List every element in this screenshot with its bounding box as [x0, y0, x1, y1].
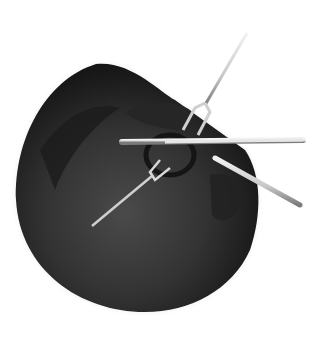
photo-scene: [0, 0, 317, 341]
surgical-photo: [0, 0, 317, 341]
